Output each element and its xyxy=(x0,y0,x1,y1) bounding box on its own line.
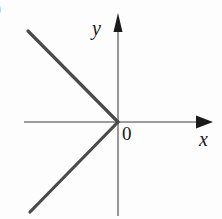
y-axis-arrowhead xyxy=(114,13,123,32)
x-axis-label: x xyxy=(199,129,208,149)
coordinate-plot xyxy=(0,0,222,219)
curve-lower-ray xyxy=(30,122,118,212)
y-axis-label: y xyxy=(92,18,101,38)
x-axis-arrowhead xyxy=(196,116,213,129)
graph-figure: ) y x 0 xyxy=(0,0,222,219)
curve-upper-ray xyxy=(28,31,118,122)
origin-label: 0 xyxy=(122,124,132,143)
